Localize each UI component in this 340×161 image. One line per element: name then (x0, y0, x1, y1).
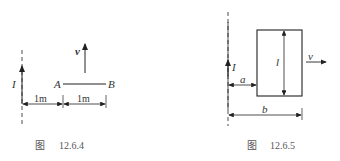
caption-prefix: 图 (247, 140, 257, 151)
figure-12-6-4: I A B v 1m 1m 图 12.6.4 (11, 44, 115, 151)
dimension-label-b: b (262, 103, 268, 115)
dimension-label-2: 1m (77, 93, 90, 104)
dimension-label-a: a (240, 73, 246, 85)
velocity-label: v (75, 45, 80, 57)
current-label: I (231, 61, 237, 73)
caption-number: 12.6.5 (270, 140, 295, 151)
diagram-canvas: I A B v 1m 1m 图 12.6.4 I l v a b 图 12.6.… (0, 0, 340, 161)
caption-prefix: 图 (35, 140, 45, 151)
dimension-label-1: 1m (34, 93, 47, 104)
rod-end-a-label: A (53, 78, 61, 90)
caption-number: 12.6.4 (59, 140, 84, 151)
rectangular-loop (257, 30, 302, 96)
figure-12-6-5: I l v a b 图 12.6.5 (228, 12, 326, 151)
rod-end-b-label: B (108, 78, 115, 90)
loop-height-label: l (276, 56, 279, 68)
current-label: I (11, 78, 17, 90)
velocity-label: v (308, 50, 313, 62)
